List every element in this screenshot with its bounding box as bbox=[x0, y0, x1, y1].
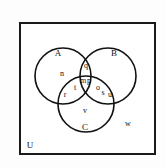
element-n-A-only: n bbox=[60, 70, 64, 78]
set-label-A: A bbox=[55, 49, 62, 58]
set-label-B: B bbox=[111, 49, 117, 58]
element-q-A-and-B: q bbox=[84, 62, 88, 70]
universal-set-label: U bbox=[27, 141, 34, 150]
element-v-C-only: v bbox=[83, 107, 87, 115]
element-p-center: p bbox=[87, 77, 91, 85]
element-o-B-and-C: o bbox=[96, 84, 100, 92]
element-t-A-and-C: t bbox=[74, 84, 76, 92]
element-u-B-and-C: u bbox=[108, 91, 112, 99]
venn-diagram-figure: A B C q n m p t r o s u v w U bbox=[0, 0, 165, 168]
element-w-outside: w bbox=[125, 120, 131, 128]
element-r-A-and-C: r bbox=[64, 91, 67, 99]
element-s-B-and-C: s bbox=[101, 89, 104, 97]
element-m-center: m bbox=[80, 77, 86, 85]
set-label-C: C bbox=[82, 123, 88, 132]
